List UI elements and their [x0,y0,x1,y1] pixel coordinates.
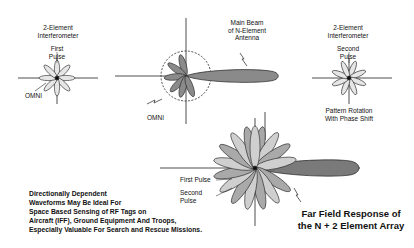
far-field-caption: Far Field Response of the N + 2 Element … [288,208,414,232]
left-title: 2-Element Interferometer [30,24,86,39]
note-line5: Especially Valuable For Search and Rescu… [29,225,202,234]
right-pulse-line1: Second [333,45,363,53]
rotation-caption-line1: Pattern Rotation [318,107,380,115]
antenna-pattern-diagram: 2-Element Interferometer First Pulse OMN… [0,0,414,248]
left-title-line2: Interferometer [30,32,86,40]
main-beam-label: Main Beam of N-Element Antenna [222,19,272,42]
left-title-line1: 2-Element [30,24,86,32]
combined-first-pulse-label: First Pulse [180,176,211,184]
note-line2: Waveforms May Be Ideal For [29,198,202,207]
rotation-caption-line2: With Phase Shift [318,115,380,123]
right-pulse-line2: Pulse [333,53,363,61]
pattern-rotation-caption: Pattern Rotation With Phase Shift [318,107,380,122]
main-beam-line3: Antenna [222,34,272,42]
note-line3: Space Based Sensing of RF Tags on [29,207,202,216]
far-field-caption-line2: the N + 2 Element Array [288,220,414,232]
note-line1: Directionally Dependent [29,189,202,198]
right-second-pulse-label: Second Pulse [333,45,363,60]
left-pulse-line2: Pulse [43,53,71,61]
far-field-caption-line1: Far Field Response of [288,208,414,220]
application-note: Directionally Dependent Waveforms May Be… [29,189,202,234]
right-title-line1: 2-Element [320,24,376,32]
main-beam-line2: of N-Element [222,27,272,35]
main-beam-line1: Main Beam [222,19,272,27]
center-omni-label: OMNI [147,114,164,122]
right-title: 2-Element Interferometer [320,24,376,39]
left-pulse-line1: First [43,45,71,53]
right-title-line2: Interferometer [320,32,376,40]
left-first-pulse-label: First Pulse [43,45,71,60]
note-line4: Aircraft (IFF), Ground Equipment And Tro… [29,216,202,225]
left-omni-label: OMNI [25,92,42,100]
